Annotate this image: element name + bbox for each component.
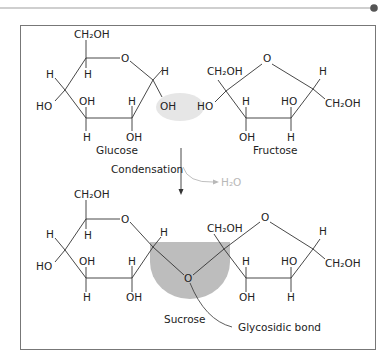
condensation-label: Condensation — [111, 163, 183, 175]
fructose-c3-h-label: H — [242, 95, 250, 107]
fructose-c3-oh-label: OH — [239, 131, 255, 143]
sucrose-fru-c4-ho-label: HO — [281, 255, 297, 267]
fructose-c1-ch2oh-label: CH₂OH — [207, 65, 243, 77]
fructose-molecule: CH₂OH O HO H OH HO H H CH₂OH Fructose — [197, 52, 361, 156]
sucrose-glc-c3-oh-label: OH — [79, 255, 95, 267]
sucrose-glc-ch2oh-label: CH₂OH — [74, 188, 110, 200]
glycosidic-highlight — [150, 242, 230, 299]
sucrose-glc-c3-h-label: H — [83, 291, 91, 303]
sucrose-fru-c4-h-label: H — [287, 291, 295, 303]
sucrose-fru-ring-oxygen-label: O — [261, 211, 269, 223]
glucose-c2-oh-label: OH — [126, 131, 142, 143]
fructose-c2-ho-label: HO — [197, 100, 213, 112]
header-dot-icon — [370, 4, 378, 12]
glucose-c5-h-label: H — [84, 68, 92, 80]
sucrose-glc-c1-h-label: H — [160, 226, 168, 238]
fructose-c4-h-label: H — [287, 131, 295, 143]
glycosidic-oxygen-label: O — [184, 272, 192, 284]
glucose-c2-h-label: H — [128, 95, 136, 107]
sucrose-glc-c4-ho-label: HO — [36, 260, 52, 272]
glucose-c4-h-label: H — [46, 68, 54, 80]
glucose-ring-oxygen-label: O — [121, 52, 129, 64]
sucrose-caption: Sucrose — [164, 313, 206, 325]
glucose-ch2oh-label: CH₂OH — [74, 28, 110, 40]
sucrose-glc-c5-h-label: H — [84, 229, 92, 241]
sucrose-formation-diagram: CH₂OH O H H HO OH H H OH H OH Glucose CH… — [0, 0, 391, 355]
glucose-c1-h-label: H — [161, 65, 169, 77]
sucrose-glc-ring-oxygen-label: O — [121, 213, 129, 225]
fructose-ring-oxygen-label: O — [263, 52, 271, 64]
sucrose-fru-c3-oh-label: OH — [239, 291, 255, 303]
glucose-c3-oh-label: OH — [79, 95, 95, 107]
glucose-c1-oh-label: OH — [160, 100, 176, 112]
glycosidic-bond-label: Glycosidic bond — [238, 321, 321, 333]
fructose-c4-ho-label: HO — [281, 95, 297, 107]
fructose-caption: Fructose — [253, 144, 298, 156]
glucose-c3-h-label: H — [83, 131, 91, 143]
sucrose-fru-c5-h-label: H — [319, 225, 327, 237]
sucrose-glc-c4-h-label: H — [46, 228, 54, 240]
water-byproduct-label: H₂O — [221, 176, 241, 188]
sucrose-fru-c1-ch2oh-label: CH₂OH — [207, 222, 243, 234]
fructose-c5-h-label: H — [319, 65, 327, 77]
sucrose-glc-c2-oh-label: OH — [126, 291, 142, 303]
sucrose-fru-c6-ch2oh-label: CH₂OH — [325, 257, 361, 269]
glucose-caption: Glucose — [96, 144, 138, 156]
sucrose-glc-c2-h-label: H — [128, 255, 136, 267]
sucrose-fru-c3-h-label: H — [242, 255, 250, 267]
glucose-molecule: CH₂OH O H H HO OH H H OH H OH Glucose — [36, 28, 176, 156]
fructose-c6-ch2oh-label: CH₂OH — [325, 97, 361, 109]
glucose-c4-ho-label: HO — [36, 100, 52, 112]
